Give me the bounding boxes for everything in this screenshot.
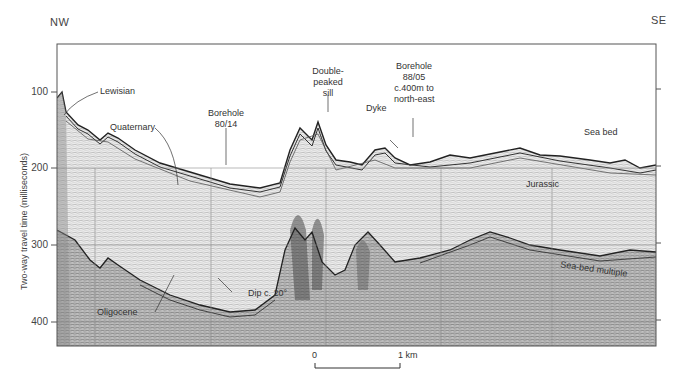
label-borehole-80-14: Borehole 80/14 bbox=[206, 108, 246, 130]
scale-bar-end-label: 1 km bbox=[398, 350, 418, 361]
sill-line1: Double- bbox=[308, 66, 348, 77]
borehole-88-05-line4: north-east bbox=[394, 94, 434, 105]
label-dip: Dip c. 20° bbox=[248, 288, 287, 299]
scale-bar bbox=[315, 363, 400, 368]
label-lewisian: Lewisian bbox=[100, 86, 135, 97]
borehole-80-14-line2: 80/14 bbox=[206, 119, 246, 130]
scale-bar-start-label: 0 bbox=[312, 350, 317, 361]
borehole-80-14-line1: Borehole bbox=[206, 108, 246, 119]
label-quaternary: Quaternary bbox=[110, 122, 155, 133]
borehole-88-05-line3: c.400m to bbox=[394, 83, 434, 94]
label-dyke: Dyke bbox=[366, 103, 387, 114]
label-sea-bed: Sea bed bbox=[584, 127, 618, 138]
label-jurassic: Jurassic bbox=[526, 179, 559, 190]
seismic-profile-plot bbox=[0, 0, 685, 392]
label-borehole-88-05: Borehole 88/05 c.400m to north-east bbox=[394, 61, 434, 105]
borehole-88-05-line2: 88/05 bbox=[394, 72, 434, 83]
label-oligocene: Oligocene bbox=[97, 307, 138, 318]
label-double-peaked-sill: Double- peaked sill bbox=[308, 66, 348, 99]
sill-line3: sill bbox=[308, 88, 348, 99]
sill-line2: peaked bbox=[308, 77, 348, 88]
borehole-88-05-line1: Borehole bbox=[394, 61, 434, 72]
